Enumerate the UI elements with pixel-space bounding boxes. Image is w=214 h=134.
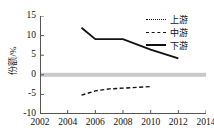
x-axis-tick: 2006 xyxy=(80,118,110,128)
legend-label-midstream: 中游 xyxy=(170,26,188,39)
legend-item-midstream[interactable]: 中游 xyxy=(146,26,188,38)
legend-item-downstream[interactable]: 下游 xyxy=(146,39,188,51)
y-axis-tick-group: 151050-5-10 xyxy=(4,0,36,134)
series-line-中游 xyxy=(82,87,151,96)
x-axis-tick: 2002 xyxy=(25,118,55,128)
zero-reference-band xyxy=(40,73,206,77)
y-axis-tick: 0 xyxy=(10,70,36,80)
chart-container: 份额/% 151050-5-10 20022004200620082010201… xyxy=(0,0,214,134)
chart-legend: 上游 中游 下游 xyxy=(146,13,188,52)
legend-label-upstream: 上游 xyxy=(170,13,188,26)
legend-swatch-solid-icon xyxy=(146,44,166,46)
x-axis-tick: 2004 xyxy=(53,118,83,128)
x-axis-tick: 2008 xyxy=(108,118,138,128)
legend-swatch-dotted-icon xyxy=(146,19,166,20)
legend-item-upstream[interactable]: 上游 xyxy=(146,13,188,25)
y-axis-tick: 15 xyxy=(10,11,36,21)
y-axis-tick: 5 xyxy=(10,50,36,60)
legend-swatch-dashed-icon xyxy=(146,32,166,33)
legend-label-downstream: 下游 xyxy=(170,39,188,52)
y-axis-tick: 10 xyxy=(10,31,36,41)
x-axis-tick: 2012 xyxy=(163,118,193,128)
x-axis-tick: 2010 xyxy=(136,118,166,128)
x-axis-tick: 2014 xyxy=(191,118,214,128)
y-axis-tick: -5 xyxy=(10,89,36,99)
